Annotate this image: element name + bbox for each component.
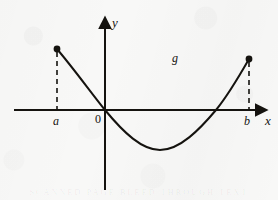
plot-canvas: [0, 0, 278, 200]
x-axis-label: x: [265, 114, 271, 127]
curve-g: [57, 49, 249, 150]
endpoint-dot-a: [54, 46, 61, 53]
math-figure: y x a b 0 g SCANNED PAGE BLEED THROUGH T…: [0, 0, 278, 200]
y-axis-label: y: [112, 16, 118, 29]
origin-label: 0: [95, 113, 101, 125]
curve-label-g: g: [172, 52, 178, 64]
x-tick-label-b: b: [244, 115, 250, 127]
x-tick-label-a: a: [53, 115, 59, 127]
endpoint-dot-b: [246, 56, 253, 63]
